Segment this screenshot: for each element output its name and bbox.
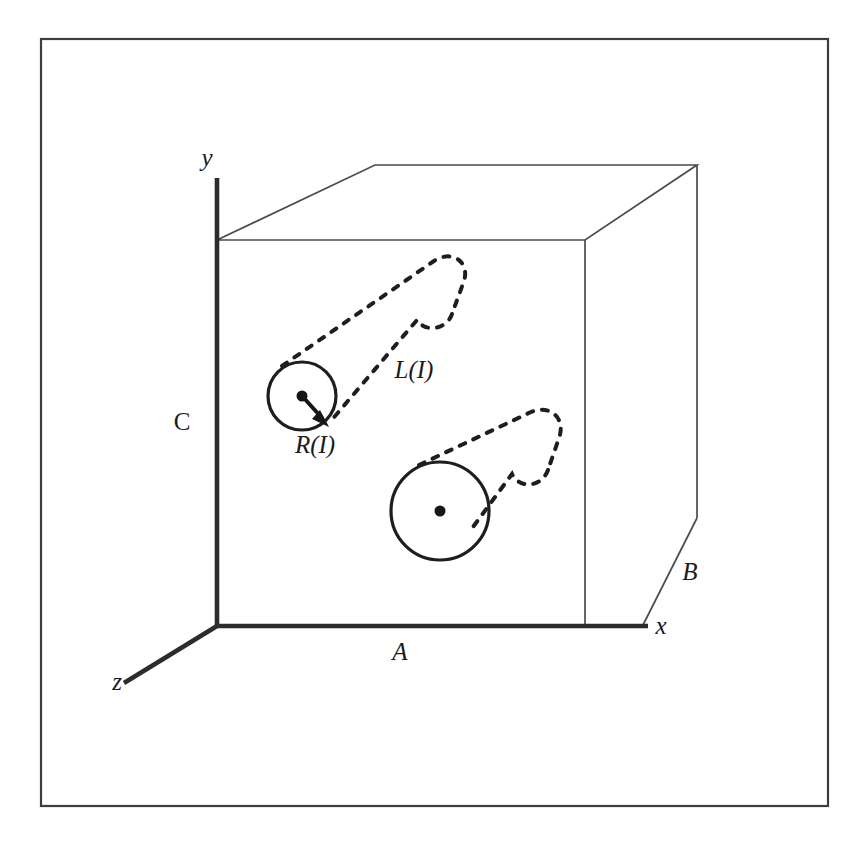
z-axis-label: z [111, 668, 122, 695]
figure-border [41, 39, 828, 806]
edge-label-b: B [682, 558, 697, 585]
cylinder-2-center-dot [435, 506, 446, 517]
edge-label-a: A [390, 638, 408, 665]
x-axis-label: x [654, 612, 666, 639]
edge-label-c: C [174, 408, 191, 435]
cylinder-radius-label: R(I) [294, 431, 335, 459]
diagram-canvas: y x z C A B L(I) R(I) [0, 0, 863, 847]
cylinder-length-label: L(I) [394, 356, 434, 384]
y-axis-label: y [198, 144, 213, 171]
figure-container: y x z C A B L(I) R(I) [0, 0, 863, 847]
